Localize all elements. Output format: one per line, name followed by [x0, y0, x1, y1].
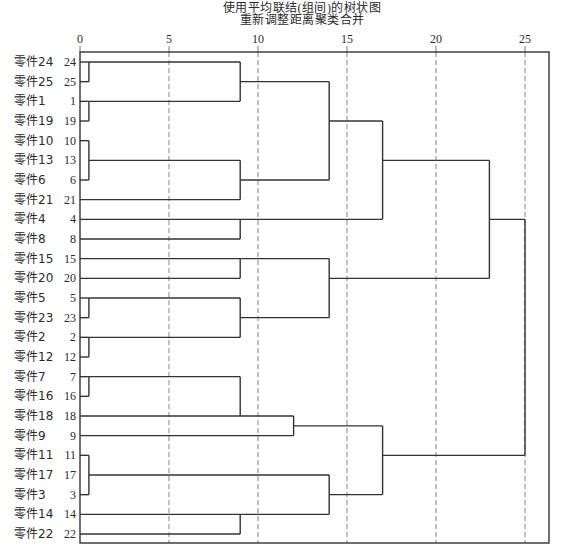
leaf-name-label: 零件4 — [14, 212, 46, 226]
dendrogram-links — [80, 62, 525, 534]
leaf-name-label: 零件22 — [14, 527, 53, 541]
leaf-id-label: 14 — [64, 507, 76, 521]
leaf-id-label: 6 — [70, 173, 76, 187]
leaf-id-label: 16 — [64, 389, 76, 403]
leaf-labels: 零件2424零件2525零件11零件1919零件1010零件1313零件66零件… — [14, 55, 76, 541]
leaf-name-label: 零件11 — [14, 448, 53, 462]
leaf-name-label: 零件19 — [14, 114, 53, 128]
leaf-id-label: 25 — [64, 75, 76, 89]
leaf-name-label: 零件17 — [14, 468, 53, 482]
leaf-name-label: 零件15 — [14, 252, 53, 266]
tick-label: 20 — [430, 32, 442, 46]
leaf-name-label: 零件12 — [14, 350, 53, 364]
leaf-name-label: 零件5 — [14, 291, 46, 305]
leaf-name-label: 零件21 — [14, 193, 53, 207]
leaf-name-label: 零件13 — [14, 153, 53, 167]
leaf-id-label: 2 — [70, 330, 76, 344]
x-axis-ticks: 0510152025 — [77, 32, 531, 52]
leaf-id-label: 12 — [64, 350, 76, 364]
leaf-id-label: 9 — [70, 429, 76, 443]
leaf-name-label: 零件8 — [14, 232, 46, 246]
leaf-name-label: 零件24 — [14, 55, 53, 69]
tick-label: 0 — [77, 32, 83, 46]
tick-label: 15 — [341, 32, 353, 46]
leaf-id-label: 15 — [64, 252, 76, 266]
leaf-id-label: 1 — [70, 94, 76, 108]
leaf-id-label: 8 — [70, 232, 76, 246]
leaf-id-label: 3 — [70, 488, 76, 502]
tick-label: 5 — [166, 32, 172, 46]
leaf-id-label: 24 — [64, 55, 76, 69]
leaf-id-label: 19 — [64, 114, 76, 128]
tick-label: 10 — [252, 32, 264, 46]
leaf-id-label: 22 — [64, 527, 76, 541]
leaf-name-label: 零件9 — [14, 429, 46, 443]
leaf-name-label: 零件7 — [14, 370, 46, 384]
leaf-id-label: 23 — [64, 311, 76, 325]
tick-label: 25 — [519, 32, 531, 46]
dendrogram-plot: 0510152025 零件2424零件2525零件11零件1919零件1010零… — [0, 0, 564, 559]
leaf-id-label: 18 — [64, 409, 76, 423]
leaf-id-label: 5 — [70, 291, 76, 305]
leaf-name-label: 零件1 — [14, 94, 46, 108]
leaf-name-label: 零件23 — [14, 311, 53, 325]
leaf-id-label: 10 — [64, 134, 76, 148]
leaf-name-label: 零件18 — [14, 409, 53, 423]
leaf-id-label: 20 — [64, 271, 76, 285]
leaf-name-label: 零件10 — [14, 134, 53, 148]
leaf-name-label: 零件2 — [14, 330, 46, 344]
leaf-name-label: 零件20 — [14, 271, 53, 285]
leaf-id-label: 13 — [64, 153, 76, 167]
leaf-name-label: 零件16 — [14, 389, 53, 403]
leaf-id-label: 4 — [70, 212, 76, 226]
leaf-id-label: 21 — [64, 193, 76, 207]
leaf-name-label: 零件14 — [14, 507, 53, 521]
leaf-id-label: 11 — [64, 448, 76, 462]
leaf-id-label: 17 — [64, 468, 76, 482]
leaf-name-label: 零件25 — [14, 75, 53, 89]
leaf-name-label: 零件6 — [14, 173, 46, 187]
leaf-id-label: 7 — [70, 370, 76, 384]
leaf-name-label: 零件3 — [14, 488, 46, 502]
